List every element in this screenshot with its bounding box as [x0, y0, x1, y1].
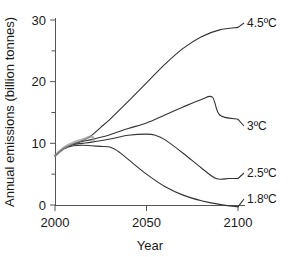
x-tick-label: 2050: [132, 215, 161, 230]
series-label-leader: [238, 23, 244, 27]
series-label-2.5c: 2.5ºC: [247, 166, 277, 180]
series-label-leader: [238, 173, 244, 178]
x-axis-title: Year: [137, 238, 164, 253]
y-tick-label: 0: [39, 198, 46, 213]
y-tick-label: 30: [32, 13, 46, 28]
x-tick-label: 2100: [224, 215, 253, 230]
y-tick-label: 10: [32, 136, 46, 151]
x-tick-label: 2000: [41, 215, 70, 230]
y-axis-title: Annual emissions (billion tonnes): [2, 17, 17, 207]
series-end-labels: 4.5ºC3ºC2.5ºC1.8ºC: [247, 16, 277, 206]
series-line-1.8c: [55, 145, 238, 207]
y-tick-label: 20: [32, 74, 46, 89]
series-line-4.5c: [55, 27, 238, 155]
series-label-leader: [238, 119, 244, 126]
series-lines: [55, 23, 244, 207]
series-label-4.5c: 4.5ºC: [247, 16, 277, 30]
chart-canvas: 0102030 200020502100 4.5ºC3ºC2.5ºC1.8ºC …: [0, 0, 297, 257]
series-line-3c: [55, 96, 238, 156]
series-label-3c: 3ºC: [247, 119, 267, 133]
series-label-1.8c: 1.8ºC: [247, 192, 277, 206]
emissions-scenario-chart: 0102030 200020502100 4.5ºC3ºC2.5ºC1.8ºC …: [0, 0, 297, 257]
y-axis-tick-labels: 0102030: [32, 13, 46, 213]
x-axis-tick-labels: 200020502100: [41, 215, 253, 230]
